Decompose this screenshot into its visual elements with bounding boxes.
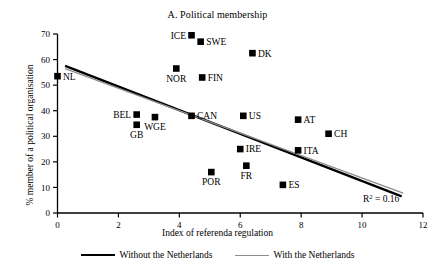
- data-point-marker: [54, 73, 61, 80]
- data-point-label: DK: [258, 49, 272, 59]
- y-tick-label: 30: [41, 131, 51, 141]
- data-point-marker: [188, 113, 195, 120]
- data-point-marker: [188, 32, 195, 39]
- trend-line: [65, 69, 403, 194]
- axes: [58, 34, 424, 213]
- y-axis-ticks: 010203040506070: [41, 29, 58, 218]
- data-point-label: GB: [130, 130, 143, 140]
- data-point-label: CH: [334, 129, 347, 139]
- data-point-marker: [237, 146, 244, 153]
- legend-label: Without the Netherlands: [120, 250, 213, 260]
- data-point-marker: [280, 182, 287, 189]
- data-point-label: FIN: [208, 73, 223, 83]
- data-point-marker: [133, 121, 140, 128]
- y-tick-label: 40: [41, 106, 51, 116]
- y-axis-label: % member of a political organisation: [25, 45, 35, 225]
- data-point-label: IRE: [246, 144, 262, 154]
- data-point-marker: [173, 65, 180, 72]
- data-point-label: POR: [202, 177, 221, 187]
- data-point-marker: [295, 147, 302, 154]
- legend-item-without-netherlands: Without the Netherlands: [81, 250, 213, 260]
- data-point-marker: [133, 111, 140, 118]
- data-point-marker: [152, 114, 159, 121]
- r-squared-annotation: R2 = 0.16: [363, 193, 400, 205]
- data-point-marker: [208, 169, 215, 176]
- data-point-label: US: [249, 111, 261, 121]
- data-point-label: WGE: [144, 122, 166, 132]
- y-tick-label: 10: [41, 183, 51, 193]
- data-points: NLBELGBWGENORICESWEFINCANPORIREFRUSDKESI…: [54, 31, 347, 191]
- y-tick-label: 60: [41, 55, 51, 65]
- trend-lines: [65, 66, 403, 196]
- legend-line-swatch-gray: [235, 255, 269, 256]
- data-point-label: ITA: [304, 146, 319, 156]
- data-point-label: CAN: [197, 111, 217, 121]
- legend-item-with-netherlands: With the Netherlands: [235, 250, 355, 260]
- data-point-marker: [243, 162, 250, 169]
- data-point-label: BEL: [113, 110, 131, 120]
- y-tick-label: 0: [46, 208, 51, 218]
- legend-line-swatch-black: [81, 254, 115, 256]
- data-point-label: SWE: [206, 37, 226, 47]
- data-point-marker: [240, 113, 247, 120]
- legend-label: With the Netherlands: [274, 250, 355, 260]
- x-axis-label: Index of referenda regulation: [0, 228, 435, 238]
- data-point-marker: [249, 50, 256, 57]
- data-point-label: ES: [288, 180, 299, 190]
- data-point-label: AT: [304, 115, 316, 125]
- y-tick-label: 70: [41, 29, 51, 39]
- data-point-label: NOR: [166, 74, 187, 84]
- data-point-label: NL: [63, 72, 76, 82]
- chart-legend: Without the Netherlands With the Netherl…: [0, 250, 435, 260]
- figure-panel: A. Political membership 010203040506070 …: [0, 0, 435, 276]
- data-point-marker: [325, 130, 332, 137]
- data-point-marker: [199, 74, 206, 81]
- y-tick-label: 50: [41, 80, 51, 90]
- data-point-label: ICE: [171, 31, 187, 41]
- data-point-marker: [197, 38, 204, 45]
- data-point-marker: [295, 116, 302, 123]
- data-point-label: FR: [241, 171, 253, 181]
- y-tick-label: 20: [41, 157, 51, 167]
